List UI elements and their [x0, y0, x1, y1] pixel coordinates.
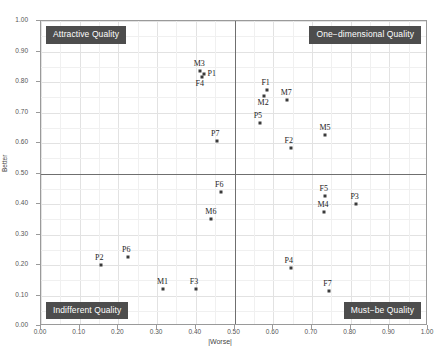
quadrant-label-attractive: Attractive Quality	[46, 26, 126, 44]
data-point-label: M2	[258, 99, 269, 107]
y-tick-label: 0.40	[2, 200, 28, 207]
quadrant-label-indifferent: Indifferent Quality	[46, 302, 128, 320]
x-tick-label: 0.80	[335, 329, 365, 336]
data-point-label: F2	[285, 137, 293, 145]
plot-area: M3P1F4P7F1M2M7P5M5F2F6M6P6P2M1F3F5P3M4P4…	[40, 20, 427, 325]
y-tick-label: 0.50	[2, 170, 28, 177]
data-point	[198, 70, 201, 73]
data-point	[262, 94, 265, 97]
x-tick-label: 0.30	[141, 329, 171, 336]
y-tick-label: 0.00	[2, 322, 28, 329]
x-tick-label: 0.40	[180, 329, 210, 336]
data-point	[285, 99, 288, 102]
data-point-label: P2	[95, 254, 103, 262]
data-point	[99, 264, 102, 267]
data-point-label: F6	[215, 181, 223, 189]
y-tick-label: 0.80	[2, 78, 28, 85]
x-tick-label: 0.90	[373, 329, 403, 336]
data-point-label: P4	[285, 257, 293, 265]
data-point-label: F3	[190, 278, 198, 286]
data-point	[266, 88, 269, 91]
data-point	[324, 134, 327, 137]
data-point	[127, 256, 130, 259]
data-point-label: F4	[196, 80, 204, 88]
data-point-label: M3	[194, 60, 205, 68]
data-point	[289, 267, 292, 270]
data-point-label: P5	[254, 112, 262, 120]
kano-scatter-chart: Better 0.000.100.200.300.400.500.600.700…	[0, 0, 440, 351]
y-tick-label: 1.00	[2, 17, 28, 24]
y-tick-label: 0.10	[2, 292, 28, 299]
data-point-label: F7	[323, 280, 331, 288]
x-tick-label: 0.70	[296, 329, 326, 336]
y-tick-label: 0.20	[2, 261, 28, 268]
x-tick-label: 0.20	[102, 329, 132, 336]
x-tick-label: 0.60	[257, 329, 287, 336]
data-point-label: M4	[318, 201, 329, 209]
data-point	[210, 218, 213, 221]
data-point	[258, 122, 261, 125]
data-point	[324, 195, 327, 198]
x-tick-label: 0.50	[219, 329, 249, 336]
data-point	[219, 190, 222, 193]
data-point-label: F5	[319, 185, 327, 193]
y-tick-label: 0.30	[2, 231, 28, 238]
y-tick-label: 0.70	[2, 109, 28, 116]
x-tick-label: 0.10	[64, 329, 94, 336]
data-point-label: F1	[261, 79, 269, 87]
data-point	[328, 289, 331, 292]
x-tick-label: 1.00	[412, 329, 440, 336]
data-point-label: P7	[211, 130, 219, 138]
data-point	[194, 288, 197, 291]
x-tick-label: 0.00	[25, 329, 55, 336]
data-point-label: M7	[281, 89, 292, 97]
data-point	[355, 203, 358, 206]
y-tick-label: 0.60	[2, 139, 28, 146]
data-point	[289, 146, 292, 149]
data-point	[322, 210, 325, 213]
data-point-label: P1	[208, 70, 216, 78]
quadrant-label-must-be: Must−be Quality	[344, 302, 421, 320]
data-point	[216, 140, 219, 143]
data-point	[161, 288, 164, 291]
data-point-label: M1	[157, 278, 168, 286]
data-points-layer: M3P1F4P7F1M2M7P5M5F2F6M6P6P2M1F3F5P3M4P4…	[41, 21, 426, 324]
data-point-label: M5	[319, 124, 330, 132]
quadrant-label-one-dimensional: One−dimensional Quality	[309, 26, 421, 44]
data-point-label: P3	[350, 193, 358, 201]
data-point-label: M6	[205, 208, 216, 216]
y-tick-label: 0.90	[2, 48, 28, 55]
x-axis-label: |Worse|	[0, 338, 440, 345]
data-point-label: P6	[122, 246, 130, 254]
